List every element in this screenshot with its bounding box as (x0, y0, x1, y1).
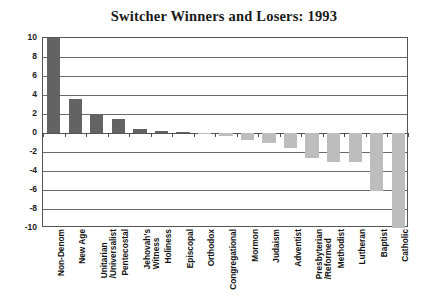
x-axis-tick (323, 133, 324, 137)
plot-inner (43, 38, 407, 226)
x-axis-tick (194, 133, 195, 137)
gridline-8 (43, 57, 407, 58)
x-axis-label: Baptist (380, 229, 389, 257)
bar (69, 99, 82, 133)
x-axis-label: Catholic (401, 229, 410, 262)
x-axis-tick (86, 133, 87, 137)
x-axis-label: Lutheran (358, 229, 367, 265)
y-tick-label: 8 (3, 51, 37, 61)
chart-figure: Switcher Winners and Losers: 1993 Non-De… (0, 0, 448, 307)
y-tick-label: -8 (3, 203, 37, 213)
x-axis-tick (301, 133, 302, 137)
x-axis-label: Episcopal (186, 229, 195, 268)
x-axis-label: Presbyterian/Reformed (315, 229, 332, 279)
bar (370, 133, 383, 191)
bar (327, 133, 340, 162)
gridline--6 (43, 190, 407, 191)
bar (305, 133, 318, 158)
x-axis-label: New Age (78, 229, 87, 264)
chart-title: Switcher Winners and Losers: 1993 (0, 8, 448, 25)
x-axis-tick (344, 133, 345, 137)
bar (219, 133, 232, 136)
y-tick-label: -10 (3, 222, 37, 232)
bar (349, 133, 362, 162)
x-axis-label: Orthodox (207, 229, 216, 266)
bar (133, 129, 146, 133)
y-tick-label: 4 (3, 89, 37, 99)
x-axis-tick (172, 133, 173, 137)
y-tick-label: -6 (3, 184, 37, 194)
y-tick-label: 6 (3, 70, 37, 80)
x-axis-labels: Non-DenomNew AgeUnitarian/UniversalistPe… (42, 229, 408, 307)
x-axis-label: Unitarian/Universalist (100, 229, 117, 278)
x-axis-tick (151, 133, 152, 137)
x-axis-tick (408, 133, 409, 137)
x-axis-tick (215, 133, 216, 137)
bar (112, 119, 125, 133)
y-tick-label: -2 (3, 146, 37, 156)
x-axis-tick (237, 133, 238, 137)
x-axis-label: Holiness (164, 229, 173, 264)
bar (262, 133, 275, 143)
bar (284, 133, 297, 148)
x-axis-tick (65, 133, 66, 137)
y-tick-label: 0 (3, 127, 37, 137)
y-tick-label: 2 (3, 108, 37, 118)
x-axis-tick (387, 133, 388, 137)
bar (198, 133, 211, 134)
gridline--4 (43, 171, 407, 172)
x-axis-tick (366, 133, 367, 137)
y-tick-label: -4 (3, 165, 37, 175)
x-axis-label: Mormon (251, 229, 260, 262)
x-axis-label: Methodist (337, 229, 346, 268)
x-axis-label: Non-Denom (57, 229, 66, 276)
plot-area (42, 37, 408, 227)
bar (90, 114, 103, 133)
gridline-4 (43, 95, 407, 96)
x-axis-tick (280, 133, 281, 137)
bar (241, 133, 254, 140)
x-axis-tick (108, 133, 109, 137)
bar (155, 131, 168, 133)
x-axis-tick (129, 133, 130, 137)
x-axis-label: Jehovah'sWitness (143, 229, 160, 269)
x-axis-label: Pentecostal (121, 229, 130, 276)
x-axis-label: Congregational (229, 229, 238, 290)
y-tick-label: 10 (3, 32, 37, 42)
bar (47, 38, 60, 133)
x-axis-tick (258, 133, 259, 137)
bar (392, 133, 405, 228)
bar (176, 132, 189, 133)
gridline-6 (43, 76, 407, 77)
x-axis-label: Adventist (294, 229, 303, 267)
gridline--8 (43, 209, 407, 210)
x-axis-tick (43, 133, 44, 137)
x-axis-label: Judaism (272, 229, 281, 263)
